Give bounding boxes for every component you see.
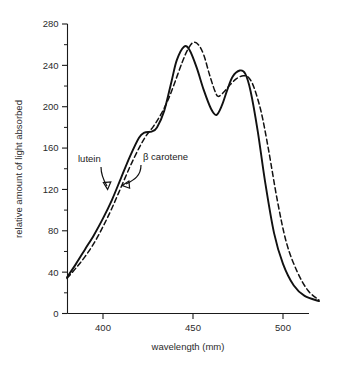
y-axis-tick-label: 40: [48, 267, 59, 278]
annotation-label-beta-carotene: β carotene: [143, 151, 188, 162]
y-axis-tick-label: 0: [53, 308, 58, 319]
x-axis-tick-labels: 400450500: [95, 322, 291, 333]
y-axis-tick-label: 280: [43, 18, 59, 29]
absorption-spectrum-figure: 04080120160200240280 400450500 lutein β …: [0, 0, 339, 373]
x-axis-tick-label: 400: [95, 322, 111, 333]
y-axis-tick-label: 240: [43, 60, 59, 71]
x-axis-tick-label: 500: [275, 322, 291, 333]
y-axis-tick-label: 160: [43, 142, 59, 153]
y-axis-tick-label: 80: [48, 225, 59, 236]
data-curves-group: [67, 42, 319, 301]
axes-group: [68, 24, 310, 314]
y-axis-title: relative amount of light absorbed: [13, 100, 24, 238]
y-axis-ticks: [62, 24, 68, 314]
annotation-label-lutein: lutein: [78, 153, 101, 164]
y-axis-tick-label: 120: [43, 184, 59, 195]
x-axis-ticks: [103, 314, 283, 320]
series-curve-lutein: [67, 46, 319, 301]
y-axis-tick-labels: 04080120160200240280: [43, 18, 59, 319]
chart-canvas: 04080120160200240280 400450500 lutein β …: [0, 0, 339, 373]
x-axis-title: wavelength (mm): [151, 341, 225, 352]
x-axis-tick-label: 450: [185, 322, 201, 333]
y-axis-tick-label: 200: [43, 101, 59, 112]
